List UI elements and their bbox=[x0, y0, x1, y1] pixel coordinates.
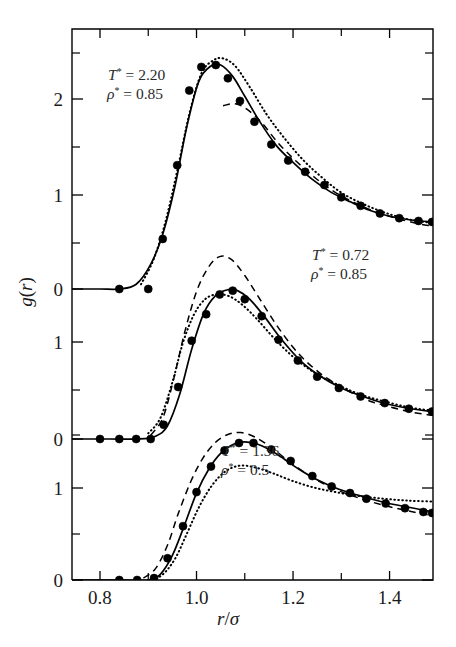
annotation-top-rho-eq: = bbox=[123, 85, 132, 102]
data-point bbox=[216, 290, 224, 298]
data-point bbox=[188, 337, 196, 345]
data-point bbox=[147, 435, 155, 443]
annotation-bottom-rho-eq: = bbox=[237, 461, 246, 478]
data-point bbox=[381, 399, 389, 407]
x-axis-title-sigma: σ bbox=[230, 608, 240, 629]
svg-text:T* = 1.36: T* = 1.36 bbox=[222, 442, 280, 459]
curve-middle-solid bbox=[72, 289, 433, 439]
annotation-middle-T-value: 0.72 bbox=[342, 246, 369, 263]
y-tick-label: 0 bbox=[54, 279, 64, 300]
data-point bbox=[415, 217, 423, 225]
y-tick-label: 2 bbox=[54, 89, 64, 110]
x-tick-label: 0.8 bbox=[88, 587, 112, 608]
data-point bbox=[320, 181, 328, 189]
data-point bbox=[419, 508, 427, 516]
datapoints-bottom bbox=[115, 439, 436, 584]
data-point bbox=[173, 161, 181, 169]
data-point bbox=[207, 463, 215, 471]
data-point bbox=[346, 489, 354, 497]
y-axis-title: g(r) bbox=[15, 277, 37, 307]
annotation-top-T-eq: = bbox=[126, 66, 135, 83]
data-point bbox=[258, 312, 266, 320]
y-axis-title-g: g bbox=[15, 297, 36, 307]
data-point bbox=[337, 193, 345, 201]
data-point bbox=[212, 61, 220, 69]
x-axis-title: r/σ bbox=[217, 608, 240, 629]
svg-text:r/σ: r/σ bbox=[217, 608, 240, 629]
data-point bbox=[357, 202, 365, 210]
data-point bbox=[174, 383, 182, 391]
annotation-bottom-T-value: 1.36 bbox=[252, 442, 279, 459]
data-point bbox=[287, 457, 295, 465]
data-point bbox=[115, 285, 123, 293]
annotation-top-T-value: 2.20 bbox=[138, 66, 165, 83]
data-point bbox=[179, 522, 187, 530]
data-point bbox=[301, 168, 309, 176]
data-point bbox=[241, 295, 249, 303]
svg-text:ρ* = 0.5: ρ* = 0.5 bbox=[220, 461, 270, 478]
data-point bbox=[357, 392, 365, 400]
data-point bbox=[284, 156, 292, 164]
y-axis-title-paren-close: ) bbox=[15, 277, 37, 283]
y-tick-label: 1 bbox=[54, 478, 64, 499]
data-point bbox=[335, 384, 343, 392]
data-point bbox=[428, 218, 436, 226]
svg-text:ρ* = 0.85: ρ* = 0.85 bbox=[106, 85, 163, 102]
radial-distribution-plot: 0.81.01.21.4 2101010 r/σ g(r) T* = 2.20 … bbox=[0, 0, 456, 647]
x-tick-label: 1.2 bbox=[281, 587, 305, 608]
y-tick-label: 0 bbox=[54, 429, 64, 450]
x-axis-tick-labels: 0.81.01.21.4 bbox=[88, 587, 402, 608]
data-point bbox=[115, 435, 123, 443]
svg-text:T* = 2.20: T* = 2.20 bbox=[108, 66, 166, 83]
annotation-bottom-rho-symbol: ρ bbox=[220, 461, 228, 478]
data-point bbox=[193, 488, 201, 496]
annotation-middle-rho-symbol: ρ bbox=[310, 265, 318, 282]
annotation-bottom-rho-value: 0.5 bbox=[250, 461, 270, 478]
data-point bbox=[405, 405, 413, 413]
data-point bbox=[197, 63, 205, 71]
data-point bbox=[202, 310, 210, 318]
svg-text:g(r): g(r) bbox=[15, 277, 37, 307]
data-point bbox=[150, 574, 158, 582]
x-tick-label: 1.4 bbox=[378, 587, 402, 608]
data-point bbox=[275, 336, 283, 344]
data-point bbox=[160, 421, 168, 429]
data-point bbox=[224, 74, 232, 82]
panel-middle bbox=[72, 256, 436, 443]
data-point bbox=[395, 214, 403, 222]
y-tick-label: 1 bbox=[54, 332, 64, 353]
y-tick-label: 1 bbox=[54, 185, 64, 206]
data-point bbox=[115, 576, 123, 584]
annotation-middle-rho-value: 0.85 bbox=[340, 265, 367, 282]
data-point bbox=[250, 118, 258, 126]
data-point bbox=[236, 97, 244, 105]
data-point bbox=[328, 482, 336, 490]
data-point bbox=[159, 235, 167, 243]
annotation-top: T* = 2.20 ρ* = 0.85 bbox=[106, 66, 166, 102]
data-point bbox=[382, 499, 390, 507]
data-point bbox=[132, 435, 140, 443]
y-tick-label: 0 bbox=[54, 570, 64, 591]
annotation-middle-T-eq: = bbox=[330, 246, 339, 263]
data-point bbox=[133, 576, 141, 584]
curve-top-dotted bbox=[141, 58, 433, 284]
data-point bbox=[294, 357, 302, 365]
annotation-top-rho-value: 0.85 bbox=[136, 85, 163, 102]
x-tick-label: 1.0 bbox=[185, 587, 209, 608]
annotation-middle: T* = 0.72 ρ* = 0.85 bbox=[310, 246, 369, 282]
x-axis-ticks bbox=[100, 29, 390, 580]
annotation-middle-rho-eq: = bbox=[327, 265, 336, 282]
curve-middle-dotted bbox=[148, 294, 433, 433]
data-point bbox=[428, 408, 436, 416]
data-point bbox=[267, 140, 275, 148]
annotation-bottom-T-eq: = bbox=[240, 442, 249, 459]
curve-layer bbox=[72, 58, 436, 584]
svg-text:T* = 0.72: T* = 0.72 bbox=[312, 246, 369, 263]
data-point bbox=[164, 554, 172, 562]
annotation-top-rho-symbol: ρ bbox=[106, 85, 114, 102]
data-point bbox=[96, 435, 104, 443]
data-point bbox=[313, 373, 321, 381]
data-point bbox=[144, 285, 152, 293]
data-point bbox=[229, 287, 237, 295]
y-axis-tick-labels: 2101010 bbox=[54, 89, 64, 591]
